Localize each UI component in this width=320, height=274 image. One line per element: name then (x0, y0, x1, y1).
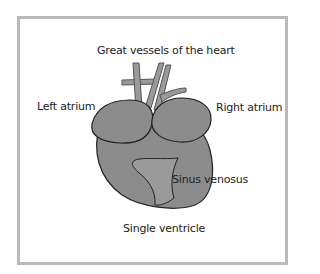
label-great-vessels: Great vessels of the heart (97, 44, 235, 57)
label-left-atrium: Left atrium (37, 100, 95, 113)
right-atrium-shape (152, 98, 211, 142)
left-atrium-shape (92, 100, 153, 143)
label-sinus-venosus: Sinus venosus (172, 173, 248, 186)
label-right-atrium: Right atrium (216, 101, 282, 114)
label-single-ventricle: Single ventricle (123, 222, 205, 235)
